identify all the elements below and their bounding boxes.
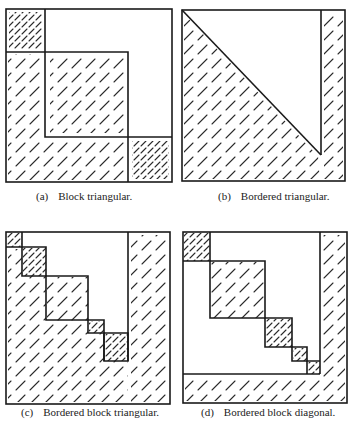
diagonal-block-4 bbox=[89, 321, 104, 333]
diagonal-block-3 bbox=[132, 141, 169, 179]
panel-a-block-triangular bbox=[6, 9, 172, 182]
diagonal-block-4 bbox=[293, 348, 307, 361]
diagonal-block-3 bbox=[266, 319, 292, 347]
diagonal-block-2 bbox=[23, 248, 46, 276]
caption-d: (d)Bordered block diagonal. bbox=[201, 406, 335, 418]
caption-c-tag: (c) bbox=[21, 406, 33, 418]
border-column bbox=[323, 235, 345, 401]
caption-c: (c)Bordered block triangular. bbox=[21, 406, 159, 418]
panel-c-bordered-block-triangular bbox=[6, 232, 170, 404]
diagonal-block-1 bbox=[184, 233, 210, 261]
diagonal-block-2 bbox=[211, 262, 265, 318]
lower-triangle-region bbox=[184, 14, 320, 179]
matrix-structure-figure bbox=[0, 0, 355, 421]
border-row bbox=[185, 377, 321, 401]
caption-b: (b)Bordered triangular. bbox=[218, 190, 329, 202]
diagonal-block-5 bbox=[105, 334, 128, 361]
caption-c-text: Bordered block triangular. bbox=[43, 406, 159, 418]
caption-a: (a)Block triangular. bbox=[36, 190, 132, 202]
caption-b-text: Bordered triangular. bbox=[241, 190, 330, 202]
border-column bbox=[131, 235, 168, 402]
caption-d-tag: (d) bbox=[201, 406, 214, 418]
caption-a-tag: (a) bbox=[36, 190, 48, 202]
diagonal-block-1 bbox=[9, 12, 42, 49]
diagonal-block-3 bbox=[47, 277, 88, 320]
caption-b-tag: (b) bbox=[218, 190, 231, 202]
diagonal-block-2 bbox=[50, 57, 124, 133]
panel-d-bordered-block-diagonal bbox=[183, 232, 347, 403]
diagonal-block-1 bbox=[7, 233, 22, 247]
caption-d-text: Bordered block diagonal. bbox=[224, 406, 336, 418]
diagonal-block-5 bbox=[308, 362, 320, 374]
panel-b-bordered-triangular bbox=[182, 10, 345, 181]
caption-a-text: Block triangular. bbox=[58, 190, 132, 202]
border-column bbox=[324, 13, 343, 179]
